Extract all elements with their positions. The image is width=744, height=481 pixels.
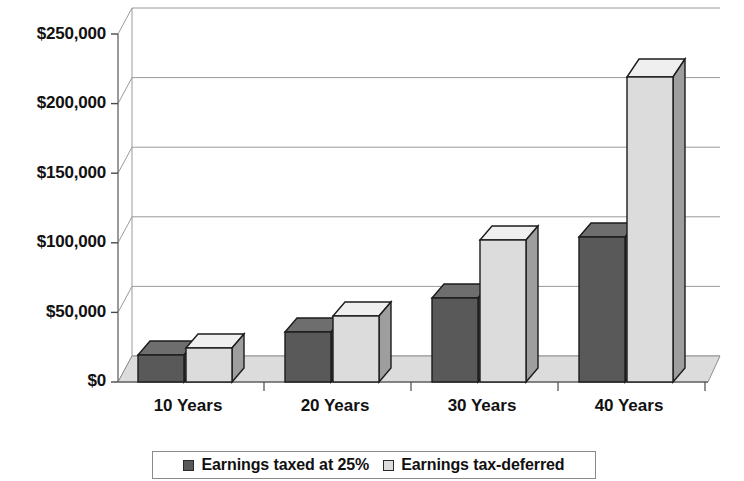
- bar-40-years-deferred[interactable]: [627, 59, 685, 382]
- x-tick-label-20-years: 20 Years: [265, 396, 405, 416]
- legend-item-taxed[interactable]: Earnings taxed at 25%: [183, 456, 369, 474]
- x-axis-line: [118, 382, 708, 391]
- y-axis-line: [111, 34, 118, 382]
- legend-label-deferred: Earnings tax-deferred: [401, 456, 564, 474]
- plot-side-wall: [118, 8, 132, 382]
- y-tick-label-50000: $50,000: [0, 302, 106, 322]
- bar-20-years-deferred[interactable]: [333, 302, 391, 382]
- y-tick-label-100000: $100,000: [0, 232, 106, 252]
- bar-30-years-deferred[interactable]: [480, 226, 538, 382]
- legend-swatch-taxed: [183, 460, 194, 471]
- x-tick-label-30-years: 30 Years: [412, 396, 552, 416]
- legend-item-deferred[interactable]: Earnings tax-deferred: [383, 456, 564, 474]
- y-tick-label-150000: $150,000: [0, 163, 106, 183]
- bar-group-10-years: [138, 334, 244, 382]
- y-tick-label-0: $0: [0, 371, 106, 391]
- x-tick-label-40-years: 40 Years: [559, 396, 699, 416]
- chart-legend: Earnings taxed at 25% Earnings tax-defer…: [152, 451, 596, 479]
- bar-10-years-deferred[interactable]: [186, 334, 244, 382]
- y-tick-label-250000: $250,000: [0, 24, 106, 44]
- legend-swatch-deferred: [383, 460, 394, 471]
- chart-container: $250,000 $200,000 $150,000 $100,000 $50,…: [0, 0, 744, 481]
- y-tick-label-200000: $200,000: [0, 93, 106, 113]
- x-tick-label-10-years: 10 Years: [118, 396, 258, 416]
- legend-label-taxed: Earnings taxed at 25%: [201, 456, 369, 474]
